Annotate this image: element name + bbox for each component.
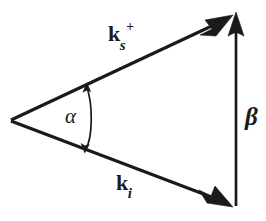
incident-wavevector-shaft xyxy=(11,121,214,198)
ki-symbol: k xyxy=(116,170,128,195)
scattered-wavevector-label: ks+ xyxy=(108,22,134,50)
beta-vector-arrow xyxy=(228,12,244,206)
incident-wavevector-arrowhead xyxy=(199,186,233,207)
alpha-angle-arc xyxy=(81,83,92,154)
alpha-arc-curve xyxy=(86,87,92,150)
ks-superscript: + xyxy=(126,19,134,34)
incident-wavevector-label: ki xyxy=(116,172,132,198)
scattering-vector-diagram: ks+ ki β α xyxy=(0,0,266,221)
beta-label: β xyxy=(245,104,258,129)
ks-subscript: s xyxy=(120,37,126,53)
alpha-label: α xyxy=(65,106,76,127)
ki-subscript: i xyxy=(128,185,132,201)
ks-symbol: k xyxy=(108,21,120,46)
scattered-wavevector-arrowhead xyxy=(200,15,233,36)
alpha-symbol: α xyxy=(65,104,76,128)
beta-symbol: β xyxy=(245,103,258,130)
